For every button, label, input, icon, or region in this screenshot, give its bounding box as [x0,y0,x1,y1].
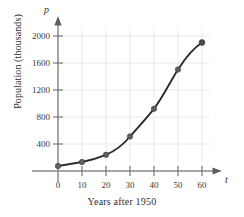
x-tick-label-10: 10 [72,180,92,190]
x-tick-label-30: 30 [120,180,140,190]
x-axis-title: Years after 1950 [0,196,244,207]
y-axis-title: Population (thousands) [12,0,23,127]
vertical-gridlines [58,30,202,171]
x-axis-variable-label: t [225,174,228,185]
y-axis-variable-label: p [44,4,49,15]
x-tick-label-40: 40 [144,180,164,190]
y-axis [54,16,61,182]
x-axis [32,167,222,174]
x-tick-label-50: 50 [168,180,188,190]
x-tick-label-20: 20 [96,180,116,190]
population-growth-chart: p t 2000 1600 1200 800 400 0 10 20 30 40… [0,0,244,217]
x-tick-label-60: 60 [192,180,212,190]
horizontal-gridlines [58,36,210,144]
y-tick-label-400: 400 [14,139,50,149]
x-tick-label-0: 0 [48,180,68,190]
